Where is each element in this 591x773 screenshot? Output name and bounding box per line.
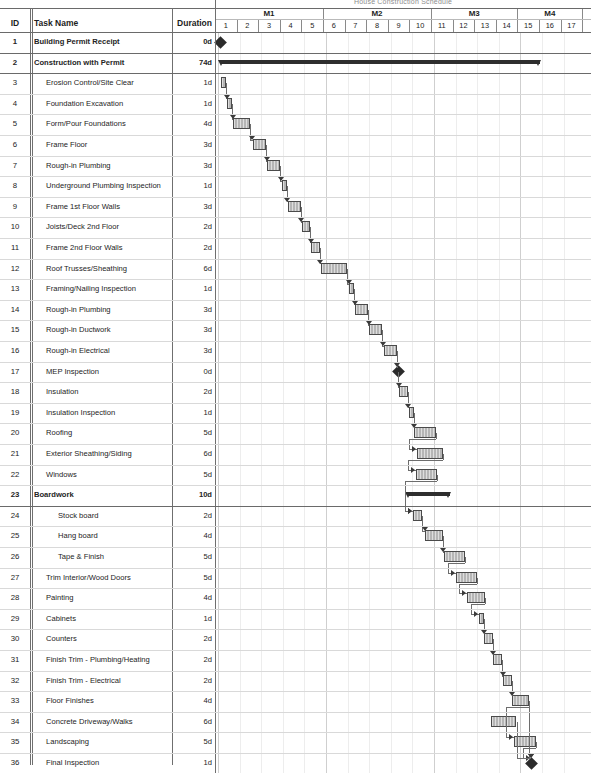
dependency-link [266,161,267,162]
dependency-link [280,181,282,182]
dependency-arrow [308,239,314,243]
dependency-link [347,284,350,285]
summary-bar-23 [407,492,450,496]
dependency-arrow [278,177,284,181]
column-separator [30,8,31,765]
task-bar-26 [444,551,466,562]
task-bar-9 [288,201,301,212]
task-bar-22 [416,469,438,480]
dependency-arrow [317,260,323,264]
row-separator [0,568,591,569]
row-separator [0,547,591,548]
task-bar-10 [302,221,311,232]
task-bar-30 [484,633,493,644]
task-bar-7 [267,160,280,171]
task-bar-25 [425,530,442,541]
row-separator [0,506,591,507]
dependency-link [301,222,302,223]
row-separator [0,526,591,527]
dependency-arrow [284,198,290,202]
row-separator [0,156,591,157]
row-separator [0,671,591,672]
dependency-arrow [224,95,230,99]
row-separator [0,341,591,342]
dependency-link [443,552,444,553]
dependency-link [422,531,425,532]
summary-bar-2 [220,60,540,64]
dependency-link [405,481,437,482]
dependency-arrow [509,692,515,696]
task-bar-15 [369,324,382,335]
task-bar-5 [233,118,250,129]
dependency-arrow [264,157,270,161]
dependency-arrow [408,508,412,514]
dependency-arrow [411,467,415,473]
summary-cap-start-2 [218,60,224,66]
task-bar-24 [413,510,422,521]
dependency-arrow [528,754,534,758]
row-separator [0,320,591,321]
dependency-arrow [412,446,416,452]
task-bar-11 [311,242,320,253]
dependency-link [443,454,444,460]
row-separator [0,629,591,630]
timeline-mid-rule [215,19,591,20]
dependency-link [517,758,532,759]
row-separator [0,691,591,692]
task-bar-33 [512,695,529,706]
task-bar-20 [414,427,436,438]
dependency-link [409,439,436,440]
dependency-arrow [230,115,236,119]
row-separator [0,300,591,301]
row-separator [0,94,591,95]
row-separator [0,732,591,733]
summary-cap-end-23 [445,492,451,498]
task-bar-6 [253,139,266,150]
task-bar-34 [491,716,517,727]
task-bar-12 [321,263,347,274]
row-separator [0,382,591,383]
dependency-arrow [411,424,417,428]
row-separator [0,197,591,198]
row-separator [0,465,591,466]
column-separator [215,0,216,773]
row-separator [0,650,591,651]
header-bottom-rule [0,32,591,33]
dependency-arrow [422,527,428,531]
task-bar-27 [456,572,478,583]
row-separator [0,588,591,589]
dependency-link [477,578,478,584]
dependency-arrow [298,218,304,222]
timeline-top-rule [215,8,591,9]
dependency-arrow [440,548,446,552]
row-separator [0,259,591,260]
dependency-link [408,460,443,461]
dependency-link [529,701,530,758]
dependency-link [459,584,477,585]
row-separator [0,712,591,713]
dependency-link [436,433,437,439]
task-bar-21 [417,448,443,459]
task-bar-28 [467,592,484,603]
dependency-arrow [500,672,506,676]
dependency-link [506,707,530,708]
row-separator [0,444,591,445]
row-separator [0,217,591,218]
dependency-link [250,140,253,141]
dependency-link [368,325,369,326]
dependency-arrow [509,734,513,740]
row-separator [0,609,591,610]
task-bar-31 [493,654,502,665]
gantt-chart-sheet: House Construction Schedule ID Task Name… [0,0,591,773]
dependency-arrow [396,383,402,387]
dependency-arrow [394,363,400,367]
row-separator [0,403,591,404]
milestone-1 [214,36,227,49]
row-separator [0,135,591,136]
dependency-arrow [481,630,487,634]
dependency-link [448,563,466,564]
task-bar-14 [355,304,368,315]
dependency-link [536,742,537,748]
row-separator [0,362,591,363]
dependency-arrow [366,321,372,325]
